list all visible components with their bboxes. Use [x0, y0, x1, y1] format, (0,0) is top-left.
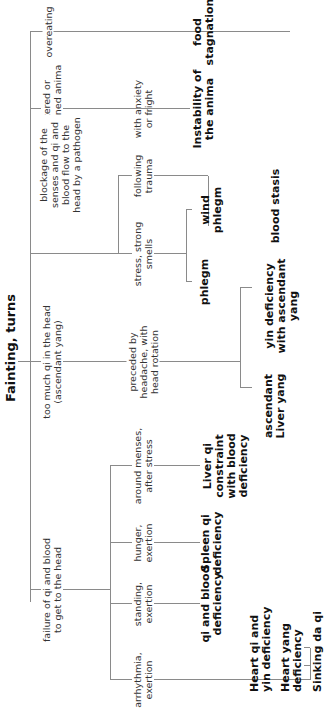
trigger-anxiety: with anxiety or fright	[132, 78, 154, 140]
root-stem-line	[18, 361, 30, 362]
pattern-blood-stasis: blood stasis	[270, 169, 282, 244]
anima-line	[70, 108, 190, 109]
trigger-standing: standing, exertion	[132, 580, 154, 628]
cause-connector	[30, 253, 118, 254]
cause-label-ascendant-yang: too much qi in the head (ascendant yang)	[41, 303, 63, 421]
pattern-qi-blood-def: qi and blood deficiency	[200, 565, 224, 642]
hunger-line	[110, 542, 200, 543]
root-trunk-line	[30, 31, 31, 602]
food-line	[60, 31, 190, 32]
yang-trunk	[175, 361, 240, 362]
yin-def-stub	[240, 287, 252, 288]
trigger-menses: around menses, after stress	[132, 426, 154, 506]
menses-line	[110, 465, 200, 466]
pattern-phlegm: phlegm	[199, 259, 211, 305]
wind-phlegm-stub	[186, 209, 192, 210]
pattern-heart-yang-def: Heart yang deficiency	[280, 602, 304, 692]
phlegm-split-line	[186, 210, 187, 282]
blockage-split-line	[118, 176, 119, 254]
cause-label-failure: failure of qi and blood to get to the he…	[41, 536, 63, 644]
pattern-food-stagnation: food stagnation	[192, 0, 216, 65]
trigger-trauma: following trauma	[132, 153, 154, 200]
pattern-liver-qi-constraint: Liver qi constraint with blood deficienc…	[202, 433, 250, 498]
pattern-heart-qi-yin-def: Heart qi and yin deficiency	[249, 592, 273, 692]
pattern-wind-phlegm: wind phlegm	[200, 187, 224, 233]
trigger-headache: preceded by headache, with head rotation	[127, 324, 160, 401]
failure-sub-trunk	[110, 466, 111, 680]
trigger-hunger: hunger, exertion	[132, 522, 154, 565]
pattern-instability-anima: Instability of the anima	[192, 70, 216, 149]
pattern-sinking-da-qi: Sinking da qi	[312, 592, 324, 692]
cause-label-overeating: overeating	[43, 4, 54, 59]
diagram-title: Fainting, turns	[3, 294, 18, 402]
yang-split-line	[240, 288, 241, 388]
heart-yang-stub	[304, 665, 310, 666]
cause-label-blockage: blockage of the senses and qi and blood …	[38, 115, 82, 215]
trigger-stress-smells: stress, strong smells	[132, 220, 154, 288]
trigger-arrhythmia: arrhythmia, exertion	[132, 650, 154, 709]
pattern-yin-def-asc-yang: yin deficiency with ascendant yang	[264, 258, 300, 353]
phlegm-stub	[186, 281, 192, 282]
heart-qi-yin-stub	[304, 647, 310, 648]
standing-line	[110, 603, 200, 604]
pattern-asc-liver-yang: ascendant Liver yang	[263, 374, 287, 439]
asc-liver-stub	[240, 387, 252, 388]
